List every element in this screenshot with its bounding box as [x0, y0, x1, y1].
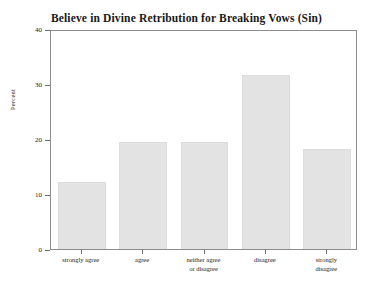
x-tick-label: strongly agree — [50, 256, 111, 265]
bar-chart: Believe in Divine Retribution for Breaki… — [0, 0, 373, 287]
x-tick-mark — [265, 250, 266, 254]
bar — [181, 142, 229, 249]
x-tick-mark — [326, 250, 327, 254]
y-tick-label: 10 — [35, 190, 42, 200]
x-tick-label: neither agree or disagree — [173, 256, 234, 273]
y-tick-label: 30 — [35, 80, 42, 90]
x-tick-mark — [204, 250, 205, 254]
chart-title: Believe in Divine Retribution for Breaki… — [0, 12, 373, 24]
plot-area — [50, 30, 357, 250]
x-tick-label: strongly disagree — [296, 256, 357, 273]
y-tick-label: 20 — [35, 135, 42, 145]
y-tick-label: 40 — [35, 25, 42, 35]
x-tick-label: agree — [111, 256, 172, 265]
y-axis-title: Percent — [9, 70, 16, 130]
y-tick-label: 0 — [39, 245, 43, 255]
bar — [58, 182, 106, 249]
x-tick-mark — [81, 250, 82, 254]
x-tick-mark — [142, 250, 143, 254]
bar — [303, 149, 351, 249]
x-tick-label: disagree — [234, 256, 295, 265]
bar — [242, 75, 290, 249]
bar — [119, 142, 167, 249]
